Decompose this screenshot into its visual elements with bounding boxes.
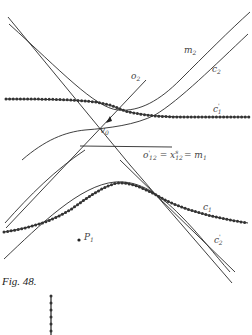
curve-c2prime-outer xyxy=(120,160,235,272)
label-m2: m2 xyxy=(184,45,197,56)
label-o2: o2 xyxy=(131,71,140,82)
figure-48-diagram: m2 c2 o2 c'1 v0 o'12= xs12= m1 c1 P1 c'2 xyxy=(0,0,252,335)
label-c2prime: c'2 xyxy=(214,233,223,246)
label-c1: c1 xyxy=(203,202,212,213)
label-c1prime: c'1 xyxy=(213,102,222,115)
curve-c2prime xyxy=(4,182,230,272)
label-p1: P1 xyxy=(83,232,94,243)
curve-c2 xyxy=(22,34,248,160)
label-c2: c2 xyxy=(212,64,221,75)
figure-caption: Fig. 48. xyxy=(2,275,37,287)
curve-m2 xyxy=(9,12,250,110)
line-o12 xyxy=(80,146,172,147)
label-o12-equation: o'12= xs12= m1 xyxy=(143,148,207,161)
point-p1 xyxy=(77,238,80,241)
label-v0: v0 xyxy=(100,125,109,136)
beaded-vertical-stub xyxy=(50,295,53,335)
